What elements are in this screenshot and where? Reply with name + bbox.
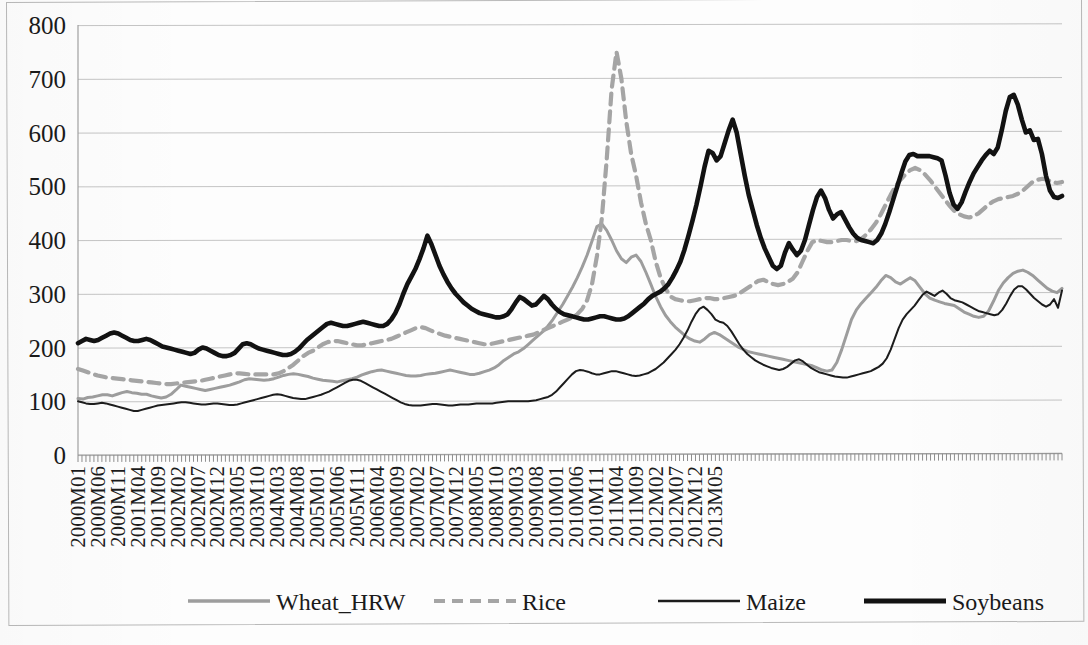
y-axis-tick-label: 800 bbox=[29, 12, 67, 39]
y-axis-tick-label: 500 bbox=[29, 173, 67, 200]
gridline bbox=[78, 239, 1062, 241]
line-chart: 0100200300400500600700800 2000M012000M06… bbox=[0, 0, 1088, 645]
gridline bbox=[78, 131, 1062, 133]
y-axis-tick-label: 300 bbox=[29, 281, 67, 308]
gridline bbox=[78, 78, 1062, 80]
y-axis-tick-labels: 0100200300400500600700800 bbox=[29, 12, 67, 469]
legend-label-wheat-hrw: Wheat_HRW bbox=[276, 589, 406, 615]
figure-note bbox=[8, 632, 1078, 645]
chart-legend: Wheat_HRWRiceMaizeSoybeans bbox=[188, 589, 1044, 615]
chart-canvas: 0100200300400500600700800 2000M012000M06… bbox=[0, 0, 1088, 645]
y-axis-tick-label: 100 bbox=[29, 388, 67, 415]
gridlines-group bbox=[78, 24, 1062, 456]
legend-label-maize: Maize bbox=[746, 589, 806, 615]
y-axis-tick-label: 0 bbox=[54, 442, 67, 469]
data-series-group bbox=[78, 52, 1062, 411]
y-axis-tick-label: 400 bbox=[29, 227, 67, 254]
gridline bbox=[78, 400, 1062, 402]
gridline bbox=[78, 185, 1062, 187]
series-line-maize bbox=[78, 286, 1062, 411]
y-axis-tick-label: 200 bbox=[29, 335, 67, 362]
gridline bbox=[78, 24, 1062, 26]
series-line-rice bbox=[78, 52, 1062, 384]
x-axis-tick-label: 2013M05 bbox=[703, 466, 727, 548]
legend-label-rice: Rice bbox=[522, 589, 566, 615]
y-axis-tick-label: 600 bbox=[29, 120, 67, 147]
series-line-soybeans bbox=[78, 95, 1062, 356]
series-line-wheat-hrw bbox=[78, 224, 1062, 399]
y-axis-tick-label: 700 bbox=[29, 66, 67, 93]
gridline bbox=[78, 346, 1062, 348]
legend-label-soybeans: Soybeans bbox=[952, 589, 1044, 615]
chart-page: 0100200300400500600700800 2000M012000M06… bbox=[0, 0, 1088, 645]
x-axis-tick-labels: 2000M012000M062000M112001M042001M092002M… bbox=[66, 466, 727, 548]
